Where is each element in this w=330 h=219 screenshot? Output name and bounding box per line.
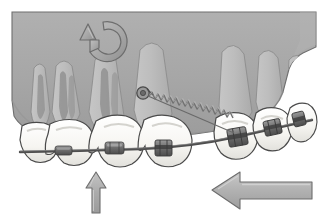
diagram-canvas — [0, 0, 330, 219]
bracket-left-incisor — [55, 146, 72, 155]
bracket-first-premolar — [155, 140, 172, 156]
bracket-canine — [105, 142, 124, 154]
intrusion-arrow-icon — [86, 172, 106, 213]
orthodontic-diagram-figure: Orthodontic intrusion and retraction mec… — [0, 0, 330, 219]
retraction-arrow-icon — [212, 172, 312, 209]
bracket-first-molar — [227, 126, 249, 147]
bracket-second-molar — [263, 118, 283, 136]
crown-first-premolar — [89, 115, 144, 167]
